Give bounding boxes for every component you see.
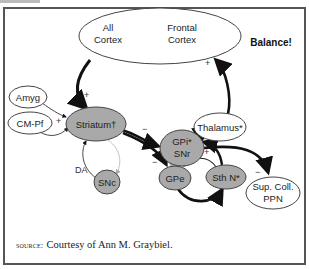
sign-striatum-gpi: − [142,124,147,134]
label-da: DA [75,165,88,175]
figure-stage: All Cortex Frontal Cortex Balance! + + +… [0,0,309,269]
node-snc: SNc [94,170,120,194]
frontal-cortex-line1: Frontal [167,22,197,33]
node-gpe: GPe [159,166,191,190]
ppn-label: PPN [263,193,283,204]
edge-striatum-snc [108,140,120,174]
node-amyg: Amyg [9,86,47,108]
supcoll-label: Sup. Coll. [252,181,293,192]
node-thalamus: Thalamus* [194,113,246,141]
edge-gpe-sthn [178,189,222,201]
edge-cortex-striatum [77,60,90,108]
sign-gpe-sthn: − [206,195,211,205]
edge-striatum-gpi [122,130,158,146]
gpi-label: GPi* [172,136,192,147]
source-text: Courtesy of Ann M. Graybiel. [47,239,173,250]
sign-amyg-striatum: + [56,116,61,126]
sign-gpi-supcoll: − [255,167,260,177]
edge-thalamus-frontal [216,60,229,114]
sign-thalamus-frontal: + [205,58,210,68]
thalamus-label: Thalamus* [197,122,243,133]
figure-source-caption: source:Courtesy of Ann M. Graybiel. [16,239,173,250]
sign-striatum-gpe: − [152,157,157,167]
node-cmpf: CM-Pf [8,112,52,134]
node-supcoll-ppn: Sup. Coll. PPN [246,177,300,209]
snc-label: SNc [98,177,116,188]
sign-cortex-striatum: + [84,90,89,100]
node-sthn: Sth N* [206,165,246,189]
sthn-label: Sth N* [212,172,240,183]
frontal-cortex-line2: Cortex [168,34,196,45]
snr-label: SNr [174,148,190,159]
source-label: source: [16,240,44,250]
all-cortex-line2: Cortex [94,34,122,45]
striatum-label: Striatum† [76,119,117,130]
all-cortex-line1: All [103,22,114,33]
basal-ganglia-diagram: All Cortex Frontal Cortex Balance! + + +… [0,0,309,269]
node-gpi-snr: GPi* SNr [160,130,204,166]
cmpf-label: CM-Pf [17,118,44,129]
amyg-label: Amyg [16,92,40,103]
gpe-label: GPe [165,173,184,184]
balance-annotation: Balance! [250,37,292,48]
node-cortex: All Cortex Frontal Cortex [79,8,241,64]
node-striatum: Striatum† [66,107,126,141]
sign-sthn-gpi: + [204,147,209,157]
